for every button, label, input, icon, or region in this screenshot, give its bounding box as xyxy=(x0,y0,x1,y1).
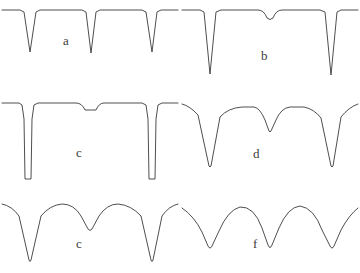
panel-a xyxy=(0,0,180,91)
panel-label-a: a xyxy=(63,34,69,47)
panel-d xyxy=(180,91,360,182)
panel-e xyxy=(0,182,180,273)
panel-a-plot xyxy=(0,0,180,91)
panel-b xyxy=(180,0,360,91)
panel-label-e: c xyxy=(76,237,82,250)
panel-label-b: b xyxy=(261,49,268,62)
panel-c xyxy=(0,91,180,182)
panel-d-curve xyxy=(182,104,358,167)
panel-label-d: d xyxy=(253,147,260,160)
panel-a-curve xyxy=(2,10,178,53)
panel-label-c: c xyxy=(76,146,82,159)
panel-e-plot xyxy=(0,182,180,273)
panel-f-plot xyxy=(180,182,360,273)
panel-b-curve xyxy=(182,10,358,75)
figure-canvas: a b c d c f xyxy=(0,0,360,273)
panel-e-curve xyxy=(2,204,178,262)
panel-f-curve xyxy=(182,206,358,248)
panel-b-plot xyxy=(180,0,360,91)
panel-label-f: f xyxy=(253,237,257,250)
panel-f xyxy=(180,182,360,273)
panel-d-plot xyxy=(180,91,360,182)
panel-c-curve xyxy=(2,103,178,179)
panel-c-plot xyxy=(0,91,180,182)
